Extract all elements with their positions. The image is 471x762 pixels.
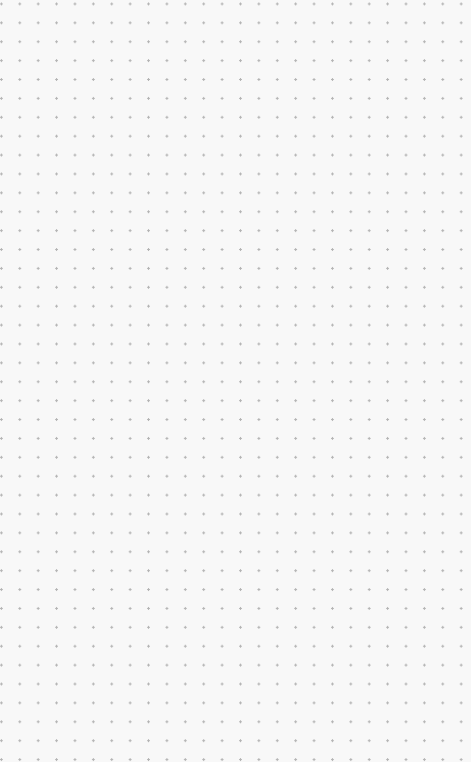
dot-grid-canvas — [0, 0, 471, 762]
